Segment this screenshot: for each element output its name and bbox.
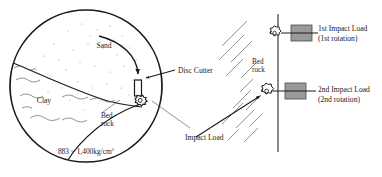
disc-cutter-hub: [138, 98, 142, 102]
right-bedrock-label-line1: Bed: [252, 58, 264, 66]
second-impact-label-line1: 2nd Impact Load: [318, 85, 370, 94]
clay-label: Clay: [37, 96, 52, 105]
disc-cutter-callout-label: Disc Cutter: [178, 66, 213, 75]
first-impact-label-line2: (1st rotation): [318, 34, 358, 43]
disc-cutter-shaft: [135, 80, 142, 96]
second-impact-label-line2: (2nd rotation): [318, 95, 360, 104]
tunnel-face-circle-group: [10, 10, 190, 162]
pressure-value: 883 ~ 1,400kg/cm: [58, 147, 112, 156]
impact-load-callout-label: Impact Load: [185, 133, 224, 142]
bedrock-label-line1: Bed: [101, 112, 113, 120]
bedrock-hatch-group: [219, 21, 262, 142]
first-impact-cutter-hub: [273, 31, 276, 34]
bedrock-label-line2: rock: [101, 120, 114, 128]
second-impact-assembly: [262, 83, 317, 99]
sand-label: Sand: [96, 41, 111, 50]
diagram-root: Sand Clay Bed rock 883 ~ 1,400kg/cm2 Dis…: [0, 0, 382, 177]
first-impact-assembly: [270, 25, 318, 41]
impact-load-leader-right: [196, 96, 260, 137]
first-impact-label-line1: 1st Impact Load: [318, 24, 368, 33]
pressure-note: 883 ~ 1,400kg/cm2: [58, 147, 115, 156]
second-impact-cutter-hub: [265, 89, 269, 93]
impact-load-leader-left: [152, 101, 190, 128]
right-bedrock-label-line2: rock: [252, 66, 265, 74]
